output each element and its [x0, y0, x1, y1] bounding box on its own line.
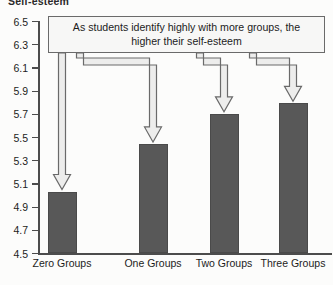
y-axis-tick: 5.3: [32, 160, 38, 161]
y-axis-tick-label: 6.1: [13, 62, 28, 74]
y-axis-tick: 5.7: [32, 114, 38, 115]
y-axis-tick-label: 5.1: [13, 178, 28, 190]
y-axis-tick-label: 4.7: [13, 224, 28, 236]
x-axis-label: Zero Groups: [33, 257, 92, 269]
bar: [279, 103, 308, 253]
annotation-text: As students identify highly with more gr…: [49, 21, 324, 48]
x-axis-line: [38, 253, 332, 255]
y-axis-tick-label: 4.5: [13, 248, 28, 260]
y-axis-tick-label: 6.5: [13, 16, 28, 28]
y-axis-tick-label: 5.9: [13, 85, 28, 97]
y-axis-tick-label: 5.5: [13, 132, 28, 144]
annotation-callout: As students identify highly with more gr…: [48, 16, 325, 53]
y-axis-tick: 6.5: [32, 21, 38, 22]
x-axis-label: Three Groups: [261, 257, 326, 269]
y-axis-tick: 6.3: [32, 44, 38, 45]
y-axis-tick: 4.5: [32, 253, 38, 254]
plot-area: 6.56.36.15.95.75.55.35.14.94.74.5 Zero G…: [38, 21, 332, 253]
bar: [210, 114, 239, 253]
y-axis-tick: 5.5: [32, 137, 38, 138]
y-axis-tick-label: 6.3: [13, 39, 28, 51]
bar: [48, 192, 77, 253]
y-axis-tick: 5.9: [32, 91, 38, 92]
y-axis-tick-label: 5.3: [13, 155, 28, 167]
y-axis-tick-label: 4.9: [13, 201, 28, 213]
x-axis-label: One Groups: [124, 257, 181, 269]
y-axis-line: [38, 21, 40, 253]
y-axis-title: Self-esteem: [8, 0, 69, 7]
bar: [139, 144, 168, 253]
y-axis-tick-label: 5.7: [13, 108, 28, 120]
bar-chart-figure: Self-esteem 6.56.36.15.95.75.55.35.14.94…: [0, 0, 333, 285]
y-axis-tick: 4.9: [32, 207, 38, 208]
y-axis-tick: 6.1: [32, 67, 38, 68]
y-axis-tick: 5.1: [32, 183, 38, 184]
x-axis-label: Two Groups: [196, 257, 253, 269]
y-axis-tick: 4.7: [32, 230, 38, 231]
